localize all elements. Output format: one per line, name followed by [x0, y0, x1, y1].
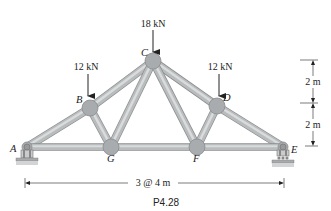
truss-members: [27, 60, 283, 147]
figure-caption: P4.28: [153, 197, 180, 208]
joint-gussets: [22, 53, 288, 155]
truss-diagram: 18 kN 12 kN 12 kN A B C D E F G: [0, 0, 331, 211]
load-label-D: 12 kN: [208, 61, 233, 72]
joint-label-C: C: [141, 47, 149, 58]
joint-label-B: B: [76, 94, 83, 105]
truss-figure: 18 kN 12 kN 12 kN A B C D E F G: [0, 0, 331, 211]
load-B: 12 kN: [74, 61, 99, 96]
vertical-dimension: [300, 60, 318, 146]
dim-label-upper: 2 m: [305, 76, 321, 87]
load-label-B: 12 kN: [74, 61, 99, 72]
joint-label-F: F: [192, 153, 200, 164]
dim-label-lower: 2 m: [305, 119, 321, 130]
load-D: 12 kN: [208, 61, 233, 96]
joint-label-D: D: [222, 92, 231, 103]
load-label-C: 18 kN: [141, 18, 166, 29]
joint-label-G: G: [107, 153, 115, 164]
joint-label-A: A: [9, 143, 17, 154]
joint-label-E: E: [290, 144, 298, 155]
gusset-B: [82, 100, 98, 116]
dim-label-span: 3 @ 4 m: [136, 177, 171, 188]
